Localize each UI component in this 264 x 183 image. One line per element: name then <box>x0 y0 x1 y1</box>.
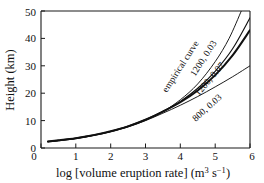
x-axis-title-mid: s <box>209 166 217 180</box>
x-tick-label-3: 3 <box>143 150 149 162</box>
chart-figure: 0 10 20 30 40 50 0 1 2 3 4 5 6 Height <box>0 0 264 183</box>
y-axis-title: Height (km) <box>3 49 17 110</box>
y-tick-label-20: 20 <box>25 87 37 99</box>
x-tick-label-6: 6 <box>249 150 255 162</box>
y-tick-label-10: 10 <box>25 115 37 127</box>
x-tick-label-1: 1 <box>73 150 79 162</box>
x-tick-label-5: 5 <box>212 150 218 162</box>
x-tick-label-0: 0 <box>31 150 37 162</box>
x-axis-title-end: ) <box>226 166 230 180</box>
x-tick-label-4: 4 <box>178 150 184 162</box>
y-tick-label-50: 50 <box>25 6 37 18</box>
y-tick-label-40: 40 <box>25 32 37 44</box>
eruption-height-chart: 0 10 20 30 40 50 0 1 2 3 4 5 6 Height <box>0 0 264 183</box>
chart-background <box>0 0 264 183</box>
x-axis-title: log [volume eruption rate] (m3 s−1) <box>56 165 230 180</box>
x-axis-title-sup-minus1: −1 <box>217 165 226 175</box>
x-tick-label-2: 2 <box>108 150 114 162</box>
y-tick-label-30: 30 <box>25 60 37 72</box>
x-axis-title-main: log [volume eruption rate] (m <box>56 166 205 180</box>
